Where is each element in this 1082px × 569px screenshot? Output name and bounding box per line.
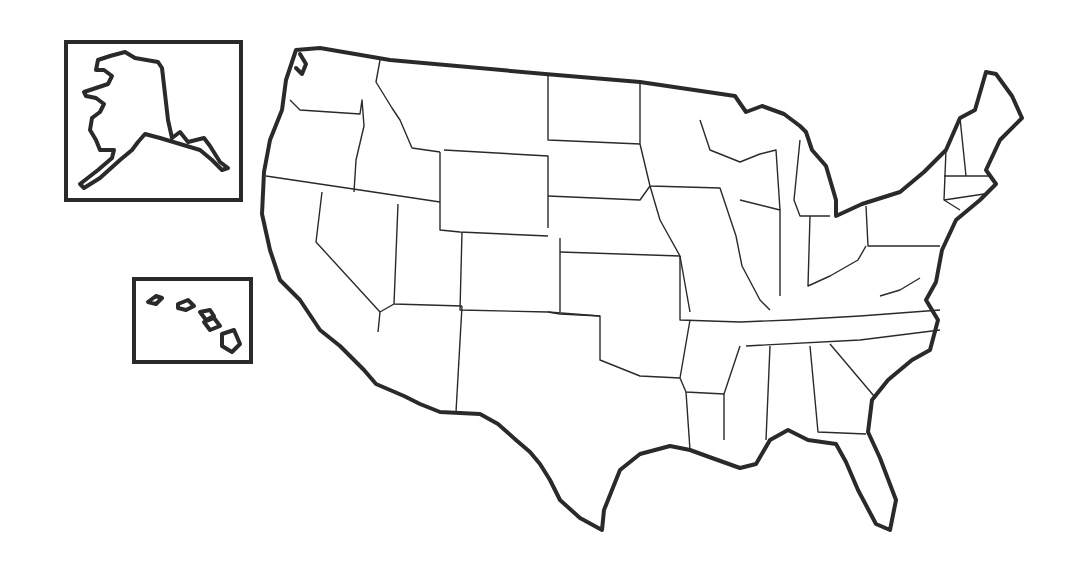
contiguous-us [262,48,1022,530]
hawaii-inset [134,279,251,362]
us-outline-map [0,0,1082,569]
alaska-inset [66,42,241,200]
